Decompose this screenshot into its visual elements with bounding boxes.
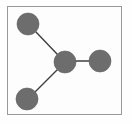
graph-figure xyxy=(0,0,132,124)
graph-edge-n2-n4 xyxy=(35,70,57,92)
graph-node-n4 xyxy=(16,88,38,110)
graph-node-n1 xyxy=(17,13,39,35)
graph-node-n3 xyxy=(89,50,111,72)
graph-node-n2 xyxy=(54,51,76,73)
graph-canvas xyxy=(0,0,132,124)
graph-edge-n1-n2 xyxy=(36,32,57,54)
graph-nodes-group xyxy=(16,13,111,110)
